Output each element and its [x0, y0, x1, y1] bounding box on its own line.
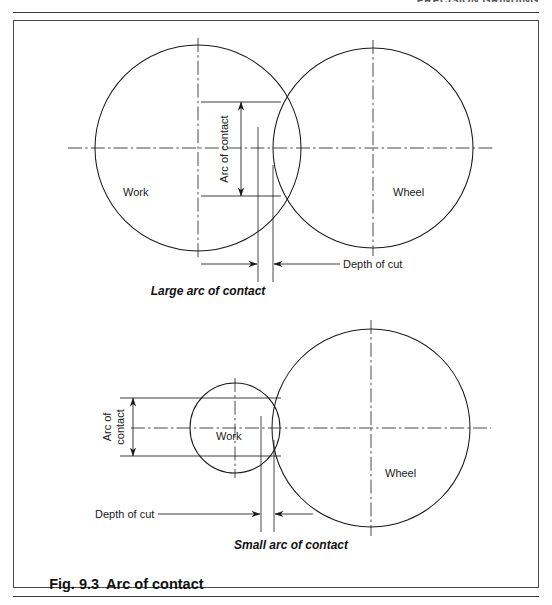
work-label-large: Work	[123, 186, 149, 198]
wheel-label-large: Wheel	[393, 186, 424, 198]
panel-small-arc: Arc of contact Depth of cut Work Wheel S…	[95, 320, 491, 552]
subcaption-large: Large arc of contact	[151, 284, 267, 298]
wheel-label-small: Wheel	[385, 467, 416, 479]
arc-of-contact-drawing: Arc of contact Depth of cut Work Wheel L…	[13, 20, 539, 588]
depth-of-cut-label-small: Depth of cut	[95, 508, 154, 520]
arc-dimension-small	[120, 398, 281, 456]
depth-of-cut-extensions-large	[258, 127, 273, 282]
running-head: PRECISION GRINDING	[417, 0, 539, 2]
subcaption-small: Small arc of contact	[234, 538, 349, 552]
arc-of-contact-label-small-line2: contact	[114, 409, 126, 444]
footer-rule	[13, 596, 539, 597]
centrelines-small	[131, 320, 491, 536]
arc-of-contact-label-large: Arc of contact	[218, 115, 230, 182]
figure-caption: Fig. 9.3Arc of contact	[33, 560, 204, 605]
header-rule	[13, 12, 539, 13]
work-label-small: Work	[216, 430, 242, 442]
figure-number: Fig. 9.3	[49, 576, 99, 592]
figure-page: PRECISION GRINDING Ar	[0, 0, 552, 605]
arc-of-contact-label-small-line1: Arc of	[101, 412, 113, 442]
panel-large-arc: Arc of contact Depth of cut Work Wheel L…	[68, 38, 493, 298]
arc-dimension-large	[201, 102, 281, 196]
depth-of-cut-label-large: Depth of cut	[343, 258, 402, 270]
centrelines-large	[68, 38, 493, 258]
figure-title: Arc of contact	[106, 576, 204, 592]
